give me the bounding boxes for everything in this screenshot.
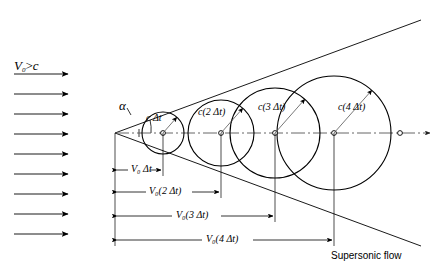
freestream-v: V: [14, 58, 22, 73]
witness-lines: [115, 133, 334, 246]
wavefront-label-2: c(2 Δt): [198, 106, 225, 117]
center-dot-5: [398, 131, 403, 136]
wavefront-label-4: c(4 Δt): [338, 101, 365, 112]
wavefront-label-3: c(3 Δt): [258, 101, 285, 112]
wavefront-label-1: c Δt: [146, 112, 162, 123]
dimension-label-4: V₀(4 Δt): [206, 233, 238, 244]
figure-caption: Supersonic flow: [331, 250, 402, 261]
alpha-leader: [127, 108, 131, 115]
freestream-arrow-group: [14, 74, 68, 234]
freestream-velocity-label: V0>c: [14, 58, 39, 74]
dimension-lines: [117, 170, 332, 240]
freestream-c: c: [33, 58, 39, 73]
dimension-label-2: V₀(2 Δt): [149, 185, 181, 196]
dimension-label-1: V₀ Δt: [131, 163, 152, 174]
dimension-label-3: V₀(3 Δt): [176, 209, 208, 220]
radius-arrow-1: [163, 117, 177, 133]
figure-canvas: V0>c α c Δt c(2 Δt) c(3 Δt) c(4 Δt) V₀ Δ…: [0, 0, 442, 273]
freestream-relation: >: [25, 58, 32, 73]
alpha-label: α: [119, 98, 126, 114]
